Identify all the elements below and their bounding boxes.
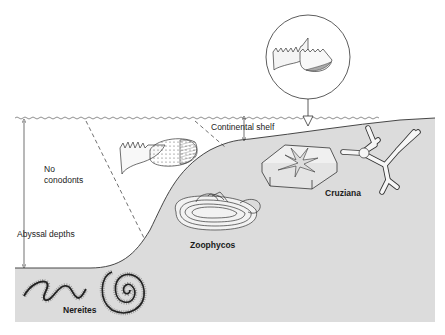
sea-surface <box>15 117 379 119</box>
conodont-boundary-dash-left <box>86 121 144 238</box>
label-zoophycos: Zoophycos <box>190 240 235 250</box>
label-abyssal-depths: Abyssal depths <box>17 229 75 239</box>
label-nereites: Nereites <box>63 305 97 315</box>
label-continental-shelf: Continental shelf <box>211 122 274 132</box>
trace-fossil-cross-section <box>0 0 445 335</box>
conodont-inset <box>266 15 350 126</box>
label-no-conodonts-line1: No <box>44 164 55 174</box>
label-no-conodonts-line2: conodonts <box>44 175 83 185</box>
label-cruziana: Cruziana <box>325 188 361 198</box>
cruziana-node <box>359 148 369 158</box>
